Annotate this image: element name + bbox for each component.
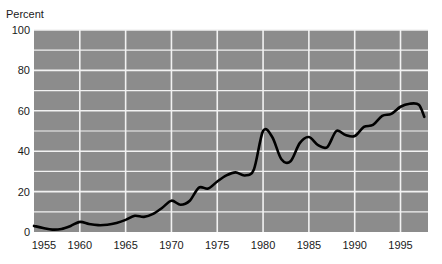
y-tick-label: 0 [24, 226, 30, 238]
x-tick-label: 1980 [251, 239, 275, 251]
x-tick-label: 1960 [68, 239, 92, 251]
chart-canvas: Percent 020406080100 1955196019651970197… [0, 0, 442, 264]
y-axis-title: Percent [6, 8, 44, 20]
y-tick-label: 40 [18, 145, 30, 157]
percent-line-chart: Percent 020406080100 1955196019651970197… [0, 0, 442, 264]
x-tick-label: 1985 [297, 239, 321, 251]
x-tick-label: 1955 [32, 239, 56, 251]
y-tick-label: 20 [18, 186, 30, 198]
x-tick-label: 1995 [388, 239, 412, 251]
x-tick-label: 1975 [205, 239, 229, 251]
y-tick-label: 60 [18, 105, 30, 117]
y-tick-label: 80 [18, 64, 30, 76]
y-tick-label: 100 [12, 24, 30, 36]
x-tick-label: 1970 [159, 239, 183, 251]
x-tick-labels: 195519601965197019751980198519901995 [32, 239, 413, 251]
x-tick-label: 1965 [113, 239, 137, 251]
x-tick-label: 1990 [342, 239, 366, 251]
